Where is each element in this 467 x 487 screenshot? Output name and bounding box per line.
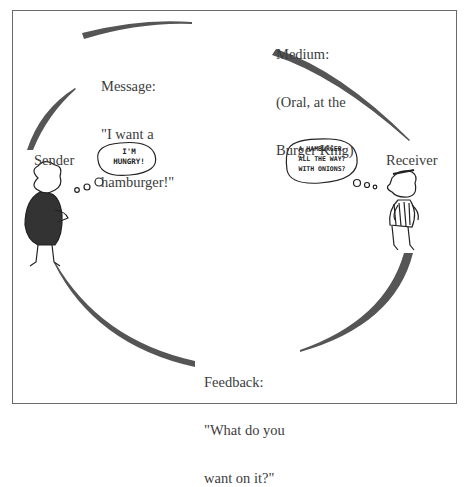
- receiver-thought-text: A HAMBURGER- ALL THE WAY? WITH ONIONS?: [286, 144, 358, 174]
- arc-message-to-medium: [82, 21, 192, 39]
- message-line2: hamburger!": [101, 174, 174, 190]
- feedback-label: Feedback: "What do you want on it?": [204, 342, 285, 487]
- message-label: Message: "I want a hamburger!": [101, 46, 174, 206]
- sender-label: Sender: [34, 152, 74, 168]
- arc-sender-to-feedback: [54, 262, 195, 367]
- sender-thought-line2: HUNGRY!: [104, 157, 154, 167]
- sender-thought-text: I'M HUNGRY!: [104, 147, 154, 167]
- feedback-line1: "What do you: [204, 422, 285, 438]
- receiver-label: Receiver: [386, 152, 438, 168]
- receiver-figure: [387, 170, 418, 250]
- receiver-thought-line3: WITH ONIONS?: [286, 164, 358, 174]
- medium-title: Medium:: [276, 46, 353, 62]
- feedback-line2: want on it?": [204, 470, 285, 486]
- feedback-title: Feedback:: [204, 374, 285, 390]
- sender-thought-line1: I'M: [104, 147, 154, 157]
- message-line1: "I want a: [101, 126, 174, 142]
- receiver-thought-line2: ALL THE WAY?: [286, 154, 358, 164]
- receiver-thought-line1: A HAMBURGER-: [286, 144, 358, 154]
- medium-line1: (Oral, at the: [276, 94, 353, 110]
- message-title: Message:: [101, 78, 174, 94]
- arc-sender-to-message: [27, 88, 76, 150]
- sender-figure: [25, 162, 68, 266]
- arc-receiver-to-feedback: [300, 253, 413, 352]
